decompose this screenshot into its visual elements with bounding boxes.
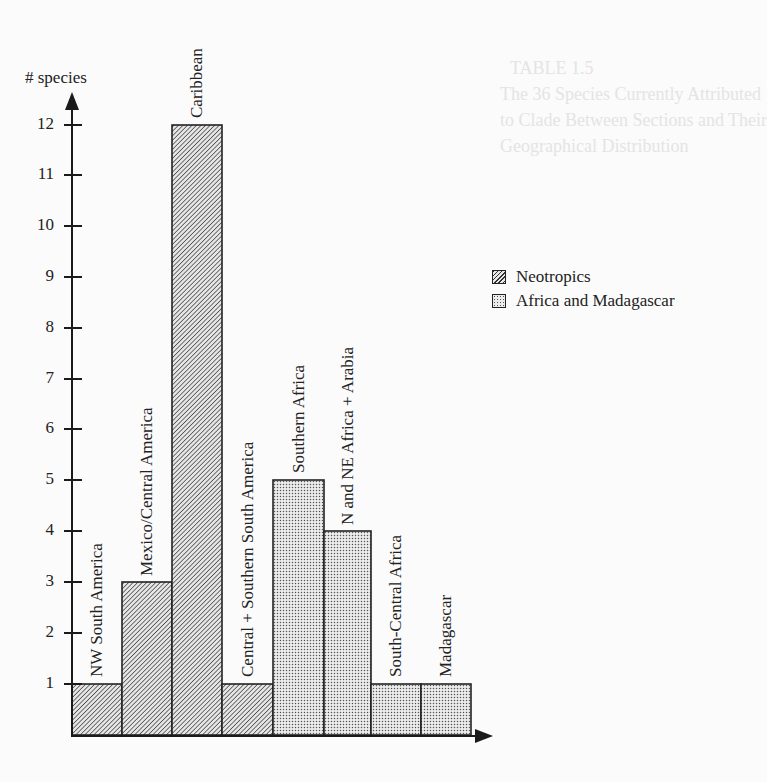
legend: Neotropics Africa and Madagascar — [492, 266, 675, 314]
bar-southern-africa — [273, 480, 324, 735]
bar-label: Mexico/Central America — [137, 407, 157, 576]
legend-label: Africa and Madagascar — [516, 291, 675, 311]
y-tick-label: 10 — [24, 215, 54, 235]
bar-madagascar — [421, 684, 471, 735]
y-tick-label: 3 — [24, 571, 54, 591]
y-tick-label: 4 — [24, 520, 54, 540]
y-axis-label: # species — [25, 68, 87, 88]
bar-label: Central + Southern South America — [238, 442, 258, 677]
bar-n-ne-africa-arabia — [324, 531, 371, 735]
hatch-swatch-icon — [492, 270, 506, 284]
bar-label: Southern Africa — [289, 365, 309, 473]
y-tick-label: 8 — [24, 317, 54, 337]
dots-swatch-icon — [492, 294, 506, 308]
bar-label: Caribbean — [187, 48, 207, 118]
x-axis-arrow-icon — [475, 729, 493, 743]
legend-item-africa-madagascar: Africa and Madagascar — [492, 290, 675, 312]
bar-south-central-africa — [371, 684, 421, 735]
y-tick-label: 1 — [24, 673, 54, 693]
bar-label: N and NE Africa + Arabia — [338, 347, 358, 525]
y-tick-label: 7 — [24, 368, 54, 388]
bar-mexico-central-america — [122, 582, 172, 735]
bar-central-southern-south-america — [222, 684, 273, 735]
y-tick-label: 5 — [24, 469, 54, 489]
bars — [72, 125, 471, 735]
y-tick-label: 2 — [24, 622, 54, 642]
bar-label: NW South America — [87, 543, 107, 677]
y-tick-label: 12 — [24, 114, 54, 134]
legend-label: Neotropics — [516, 267, 591, 287]
bar-label: Madagascar — [436, 595, 456, 677]
y-tick-label: 11 — [24, 164, 54, 184]
y-tick-label: 6 — [24, 418, 54, 438]
y-axis-arrow-icon — [65, 92, 79, 110]
legend-item-neotropics: Neotropics — [492, 266, 675, 288]
bar-nw-south-america — [72, 684, 122, 735]
bar-caribbean — [172, 125, 222, 735]
y-tick-label: 9 — [24, 266, 54, 286]
y-axis — [64, 92, 82, 736]
bar-label: South-Central Africa — [386, 535, 406, 677]
